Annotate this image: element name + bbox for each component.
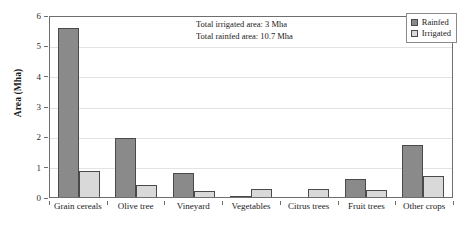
bar-rainfed [230, 196, 251, 197]
y-axis-tick-label: 0 [0, 193, 41, 203]
x-axis-tick-mark [453, 201, 454, 205]
y-axis-tick-label: 4 [0, 72, 41, 82]
annotation-line-rainfed: Total rainfed area: 10.7 Mha [196, 31, 293, 43]
x-axis-tick-label: Fruit trees [338, 201, 396, 211]
bar-rainfed [173, 173, 194, 197]
bar-groups [50, 17, 452, 197]
x-axis-labels: Grain cerealsOlive treeVineyardVegetable… [49, 201, 453, 211]
y-axis-tick-mark [44, 107, 48, 108]
bar-irrigated [251, 189, 272, 197]
x-axis-tick-mark [164, 201, 165, 205]
x-axis-tick-mark [222, 201, 223, 205]
bar-group [222, 17, 279, 197]
y-axis-tick-mark [44, 46, 48, 47]
legend-swatch-irrigated-icon [411, 30, 418, 37]
annotation-line-irrigated: Total irrigated area: 3 Mha [196, 19, 293, 31]
y-axis-tick-label: 2 [0, 132, 41, 142]
x-axis-tick-label: Vegetables [222, 201, 280, 211]
plot-area [49, 16, 453, 198]
x-axis-tick-mark [338, 201, 339, 205]
x-axis-tick-mark [280, 201, 281, 205]
legend-label-irrigated: Irrigated [422, 28, 451, 39]
legend-label-rainfed: Rainfed [422, 17, 449, 28]
bar-irrigated [366, 190, 387, 197]
bar-group [50, 17, 107, 197]
x-axis-tick-mark [107, 201, 108, 205]
y-axis-tick-mark [44, 76, 48, 77]
legend-item-irrigated[interactable]: Irrigated [411, 28, 451, 39]
bar-rainfed [58, 28, 79, 197]
chart-figure: Area (Mha) 0123456 Grain cerealsOlive tr… [0, 0, 467, 240]
bar-group [280, 17, 337, 197]
x-axis-tick-label: Other crops [395, 201, 453, 211]
bar-irrigated [423, 176, 444, 197]
y-axis-tick-mark [44, 137, 48, 138]
bar-irrigated [194, 191, 215, 197]
legend-item-rainfed[interactable]: Rainfed [411, 17, 451, 28]
bar-group [395, 17, 452, 197]
x-axis-tick-label: Olive tree [107, 201, 165, 211]
chart-legend: Rainfed Irrigated [406, 13, 457, 43]
x-axis-tick-mark [49, 201, 50, 205]
y-axis-tick-label: 5 [0, 41, 41, 51]
x-axis-tick-label: Grain cereals [49, 201, 107, 211]
bar-group [337, 17, 394, 197]
bar-rainfed [345, 179, 366, 197]
y-axis-tick-mark [44, 167, 48, 168]
bar-irrigated [79, 171, 100, 197]
bar-rainfed [115, 138, 136, 197]
chart-annotation: Total irrigated area: 3 Mha Total rainfe… [196, 19, 293, 42]
y-axis-tick-mark [44, 198, 48, 199]
y-axis-tick-label: 6 [0, 11, 41, 21]
legend-swatch-rainfed-icon [411, 19, 418, 26]
x-axis-tick-mark [395, 201, 396, 205]
bar-group [165, 17, 222, 197]
bar-irrigated [136, 185, 157, 197]
y-axis-tick-mark [44, 16, 48, 17]
y-axis-tick-label: 1 [0, 163, 41, 173]
bar-group [107, 17, 164, 197]
bar-irrigated [308, 189, 329, 197]
bar-rainfed [402, 145, 423, 197]
x-axis-tick-label: Vineyard [164, 201, 222, 211]
x-axis-tick-label: Citrus trees [280, 201, 338, 211]
y-axis-title: Area (Mha) [13, 43, 23, 143]
y-axis-tick-label: 3 [0, 102, 41, 112]
